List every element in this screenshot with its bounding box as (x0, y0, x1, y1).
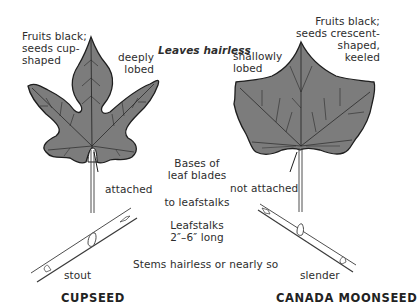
cupseed-fruit-note: Fruits black; seeds cup- shaped (22, 30, 87, 66)
cupseed-lobe-note: deeply lobed (114, 51, 154, 75)
moonseed-lobe-note: shallowly lobed (233, 50, 282, 74)
bases-of-leaf-blades-note: Bases of leaf blades (164, 157, 230, 181)
cupseed-stem-note: stout (64, 269, 91, 281)
leafstalk-length-note: Leafstalks 2″–6″ long (164, 219, 230, 243)
moonseed-stem-note: slender (300, 269, 340, 281)
moonseed-species-name: CANADA MOONSEED (276, 291, 417, 304)
moonseed-fruit-note: Fruits black; seeds crescent- shaped, ke… (290, 15, 380, 63)
stems-note: Stems hairless or nearly so (133, 258, 278, 270)
cupseed-attachment-note: attached (105, 183, 152, 195)
cupseed-species-name: CUPSEED (61, 291, 125, 304)
to-leafstalks-note: to leafstalks (160, 196, 234, 208)
moonseed-attachment-note: not attached (230, 182, 298, 194)
